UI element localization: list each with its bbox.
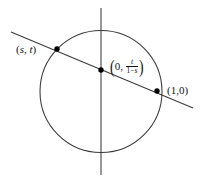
label-intercept-paren-left: ( [110,57,115,76]
point-one-zero [154,88,159,93]
label-one-zero-paren-right: ) [184,84,188,96]
label-st-comma: , [24,43,27,55]
label-intercept-zero: 0, [115,61,123,72]
fraction-numerator: t [130,58,134,66]
label-st-paren-right: ) [33,43,37,55]
label-intercept-paren-right: ) [139,57,144,76]
geometry-figure: (s, t) ( 0, t 1−s ) (1,0) [0,0,203,182]
label-point-s-t: (s, t) [16,44,36,55]
point-s-t [54,46,59,51]
point-intercept [98,67,103,72]
label-y-intercept: ( 0, t 1−s ) [109,57,144,76]
denominator-s: s [135,66,138,75]
label-point-one-zero: (1,0) [167,85,188,96]
fraction-denominator: 1−s [126,67,139,75]
label-intercept-fraction: t 1−s [126,58,139,76]
